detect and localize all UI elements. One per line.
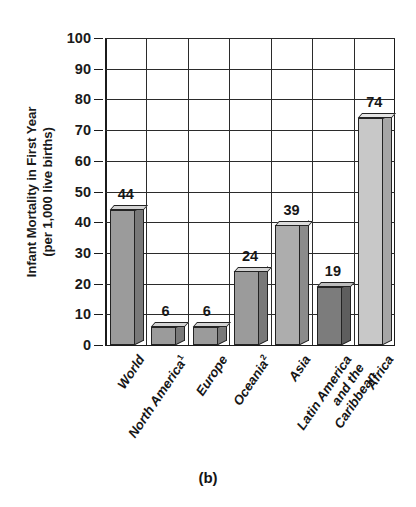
tick-mark-icon	[94, 38, 103, 39]
bar-front-face	[234, 271, 259, 345]
bar-front-face	[275, 225, 300, 345]
gridline-y-80	[105, 99, 395, 100]
bar-asia: 39	[275, 225, 300, 345]
plot-area: 0102030405060708090100 446624391974	[105, 38, 395, 345]
bar-value-label: 24	[242, 249, 258, 264]
bar-chart-figure: Infant Mortality in First Year (per 1,00…	[0, 0, 416, 507]
figure-caption: (b)	[0, 469, 416, 486]
y-tick-label: 50	[75, 184, 91, 199]
y-tick-label: 80	[75, 92, 91, 107]
bar-value-label: 6	[161, 304, 169, 319]
tick-mark-icon	[94, 314, 103, 315]
tick-mark-icon	[94, 99, 103, 100]
gridline-x-3	[229, 38, 230, 345]
bar-side-face-fill	[259, 267, 268, 345]
bar-side-face-fill	[383, 113, 392, 345]
x-axis-label-4: Asia	[286, 353, 314, 384]
bar-value-label: 74	[366, 95, 382, 110]
x-axis-label-line: Europe	[194, 353, 232, 399]
y-tick-label: 40	[75, 215, 91, 230]
gridline-y-70	[105, 130, 395, 131]
x-axis-label-2: Europe	[194, 353, 232, 399]
bar-side-face-fill	[135, 206, 144, 345]
bar-front-face	[110, 210, 135, 345]
bar-latin-america-and-the-caribbean: 19	[317, 287, 342, 345]
gridline-x-2	[188, 38, 189, 345]
gridline-y-0	[105, 345, 395, 346]
tick-mark-icon	[94, 130, 103, 131]
bar-front-face	[151, 327, 176, 345]
x-axis-label-line: and the	[307, 361, 368, 441]
y-axis-title-line2: (per 1,000 live births)	[40, 106, 56, 276]
tick-mark-icon	[94, 284, 103, 285]
y-axis-title-line1: Infant Mortality in First Year	[24, 106, 40, 276]
x-axis-label-line: World	[115, 353, 148, 392]
tick-mark-icon	[94, 161, 103, 162]
bar-front-face	[317, 287, 342, 345]
bar-side-face	[300, 225, 309, 345]
bar-world: 44	[110, 210, 135, 345]
bar-north-america: 6	[151, 327, 176, 345]
tick-mark-icon	[94, 345, 103, 346]
y-tick-label: 20	[75, 276, 91, 291]
tick-mark-icon	[94, 253, 103, 254]
x-axis-label-line: Latin America	[295, 353, 356, 433]
bar-side-face-fill	[300, 221, 309, 345]
bar-side-face	[135, 210, 144, 345]
footnote-marker: 2	[257, 352, 268, 362]
y-tick-label: 10	[75, 307, 91, 322]
x-axis-label-1: North America1	[124, 353, 191, 441]
bar-side-face	[383, 118, 392, 345]
bar-value-label: 44	[118, 187, 134, 202]
x-axis-label-0: World	[115, 353, 148, 392]
y-tick-label: 70	[75, 123, 91, 138]
footnote-marker: 1	[174, 352, 185, 362]
y-tick-label: 0	[83, 338, 91, 353]
y-tick-label: 60	[75, 154, 91, 169]
x-axis-label-3: Oceania2	[229, 353, 274, 409]
bar-oceania: 24	[234, 271, 259, 345]
gridline-y-40	[105, 222, 395, 223]
x-axis-label-line: Africa	[364, 353, 397, 392]
tick-mark-icon	[94, 192, 103, 193]
gridline-x-6	[354, 38, 355, 345]
bar-side-face-fill	[342, 282, 351, 345]
bar-side-face	[342, 287, 351, 345]
bar-value-label: 6	[203, 304, 211, 319]
gridline-x-4	[271, 38, 272, 345]
x-axis-label-line: North America1	[124, 353, 191, 441]
x-axis-label-line: Asia	[286, 353, 314, 384]
gridline-y-60	[105, 161, 395, 162]
x-axis-label-6: Africa	[364, 353, 397, 392]
bar-side-face	[176, 327, 185, 345]
tick-mark-icon	[94, 222, 103, 223]
y-tick-label: 30	[75, 246, 91, 261]
gridline-y-90	[105, 69, 395, 70]
x-axis-label-5: Latin Americaand theCaribbean	[295, 353, 380, 450]
gridline-y-100	[105, 38, 395, 39]
y-tick-label: 90	[75, 61, 91, 76]
gridline-x-5	[312, 38, 313, 345]
bar-europe: 6	[193, 327, 218, 345]
y-axis-title: Infant Mortality in First Year (per 1,00…	[18, 34, 62, 349]
bar-side-face	[218, 327, 227, 345]
x-axis-label-line: Oceania2	[229, 353, 274, 409]
x-axis-label-line: Caribbean	[319, 370, 380, 450]
gridline-x-1	[146, 38, 147, 345]
bar-front-face	[358, 118, 383, 345]
bar-value-label: 39	[283, 203, 299, 218]
gridline-y-50	[105, 192, 395, 193]
bar-value-label: 19	[325, 264, 341, 279]
y-tick-label: 100	[67, 31, 91, 46]
bar-africa: 74	[358, 118, 383, 345]
bar-side-face	[259, 271, 268, 345]
tick-mark-icon	[94, 69, 103, 70]
bar-front-face	[193, 327, 218, 345]
